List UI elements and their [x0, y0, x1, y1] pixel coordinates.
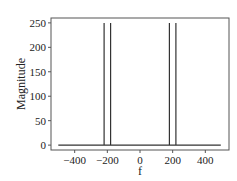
y-axis-label: Magnitude	[14, 58, 28, 110]
y-tick-label: 200	[30, 41, 47, 53]
x-tick-label: 400	[197, 154, 214, 166]
x-tick-label: −400	[63, 154, 86, 166]
x-axis-label: f	[138, 164, 142, 178]
y-tick-label: 150	[30, 66, 47, 78]
y-tick-label: 100	[30, 90, 47, 102]
y-tick-label: 0	[41, 139, 47, 151]
x-tick-label: −200	[96, 154, 119, 166]
series-line	[58, 23, 221, 145]
y-tick-label: 50	[35, 115, 47, 127]
plot-area	[58, 23, 221, 145]
chart: 050100150200250 −400−2000200400 f Magnit…	[0, 0, 237, 181]
y-axis-ticks: 050100150200250	[30, 17, 52, 151]
y-tick-label: 250	[30, 17, 47, 29]
axes-frame	[51, 18, 229, 150]
x-tick-label: 200	[164, 154, 181, 166]
